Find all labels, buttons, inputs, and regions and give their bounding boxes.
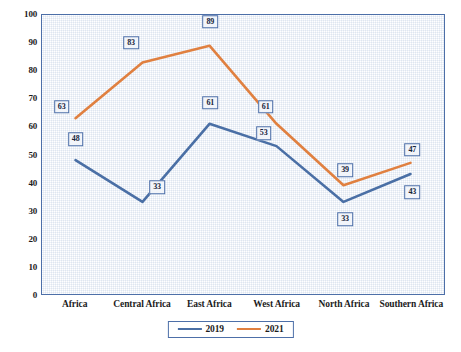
legend-swatch-icon xyxy=(237,328,261,331)
chart-legend: 20192021 xyxy=(167,321,293,338)
y-axis-tick: 60 xyxy=(3,121,37,131)
line-chart: 1009080706050403020100 48336153334363838… xyxy=(0,0,461,352)
series-line-2019 xyxy=(76,124,411,202)
y-axis-tick: 50 xyxy=(3,150,37,160)
legend-item-2019[interactable]: 2019 xyxy=(177,324,224,334)
legend-swatch-icon xyxy=(177,328,201,331)
y-axis-tick: 80 xyxy=(3,65,37,75)
data-label: 47 xyxy=(405,143,421,157)
y-axis-tick: 40 xyxy=(3,178,37,188)
x-axis-tick: Southern Africa xyxy=(378,299,445,315)
y-axis-tick: 100 xyxy=(3,9,37,19)
data-label: 89 xyxy=(203,15,219,29)
x-axis-tick: Central Africa xyxy=(108,299,175,315)
series-line-2021 xyxy=(76,46,411,186)
x-axis-tick: West Africa xyxy=(243,299,310,315)
data-label: 33 xyxy=(149,181,165,195)
y-axis-tick: 30 xyxy=(3,206,37,216)
data-label: 33 xyxy=(337,213,353,227)
legend-label: 2019 xyxy=(205,324,224,334)
y-axis-tick: 0 xyxy=(3,290,37,300)
data-label: 61 xyxy=(203,96,219,110)
plot-area: 483361533343638389613947 xyxy=(41,14,445,295)
data-label: 53 xyxy=(256,126,272,140)
data-label: 48 xyxy=(68,132,84,146)
x-axis-tick: North Africa xyxy=(310,299,377,315)
x-axis-tick: Africa xyxy=(41,299,108,315)
y-axis-tick: 10 xyxy=(3,262,37,272)
y-axis-tick: 20 xyxy=(3,234,37,244)
legend-label: 2021 xyxy=(265,324,284,334)
x-axis: AfricaCentral AfricaEast AfricaWest Afri… xyxy=(41,299,445,315)
legend-item-2021[interactable]: 2021 xyxy=(237,324,284,334)
data-label: 43 xyxy=(405,185,421,199)
data-label: 61 xyxy=(258,100,274,114)
y-axis: 1009080706050403020100 xyxy=(0,14,37,295)
x-axis-tick: East Africa xyxy=(176,299,243,315)
y-axis-tick: 70 xyxy=(3,93,37,103)
y-axis-tick: 90 xyxy=(3,37,37,47)
plot-lines xyxy=(42,15,444,294)
data-label: 39 xyxy=(337,164,353,178)
data-label: 63 xyxy=(54,100,70,114)
data-label: 83 xyxy=(123,36,139,50)
